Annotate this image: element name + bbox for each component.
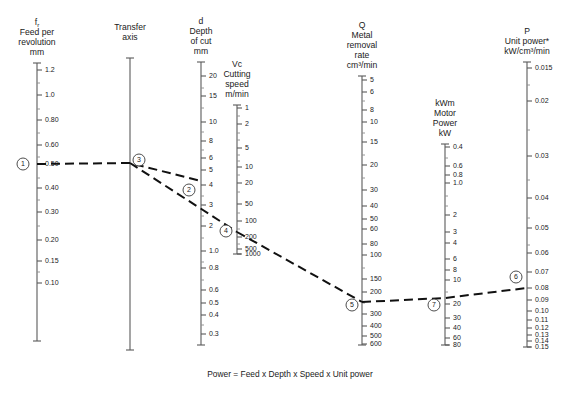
axis-header-motor-1: Power (433, 118, 457, 128)
tick-label-depth-12: 3 (209, 201, 213, 208)
tick-label-feed-6: 0.60 (45, 141, 59, 148)
tick-label-motor-8: 3 (453, 228, 457, 235)
tick-label-unitpower-14: 0.10 (535, 307, 549, 314)
tick-label-unitpower-19: 0.15 (535, 343, 549, 350)
tick-label-motor-16: 40 (453, 324, 461, 331)
tick-label-depth-18: 0.8 (209, 264, 219, 271)
node-marker-6: 6 (510, 271, 522, 283)
tick-label-depth-20: 0.6 (209, 286, 219, 293)
tick-label-depth-8: 6 (209, 154, 213, 161)
tick-label-depth-14: 2 (209, 222, 213, 229)
axis-symbol-mrr: Q (359, 20, 366, 30)
tick-label-depth-16: 1.0 (209, 247, 219, 254)
isopleth-feed-to-depth (37, 163, 201, 181)
tick-label-unitpower-12: 0.08 (535, 284, 549, 291)
tick-label-feed-15: 0.15 (45, 257, 59, 264)
tick-label-mrr-3: 8 (370, 106, 374, 113)
axis-symbol-speed: Vc (232, 59, 243, 69)
axis-header-depth-0: Depth (190, 26, 213, 36)
tick-label-unitpower-8: 0.05 (535, 224, 549, 231)
tick-label-motor-9: 4 (453, 239, 457, 246)
tick-label-speed-8: 10 (245, 163, 253, 170)
axis-header-unitpower-1: kW/cm³/min (504, 46, 550, 56)
tick-label-feed-17: 0.10 (45, 279, 59, 286)
node-label-3: 3 (137, 156, 141, 163)
tick-label-motor-10: 6 (453, 255, 457, 262)
node-marker-5: 5 (346, 299, 358, 311)
axis-symbol-unitpower: P (524, 26, 530, 36)
tick-label-feed-14: 0.20 (45, 236, 59, 243)
axis-header-transfer-1: axis (122, 32, 137, 42)
axis-header-speed-1: speed (225, 79, 249, 89)
tick-label-depth-2: 15 (209, 92, 217, 99)
tick-label-feed-12: 0.30 (45, 208, 59, 215)
node-label-2: 2 (187, 186, 191, 193)
tick-label-motor-0: 0.4 (453, 143, 463, 150)
tick-label-motor-15: 30 (453, 314, 461, 321)
tick-label-mrr-22: 500 (370, 332, 382, 339)
tick-label-feed-0: 1.2 (45, 66, 55, 73)
node-label-4: 4 (224, 227, 228, 234)
tick-label-mrr-10: 30 (370, 186, 378, 193)
tick-label-mrr-11: 40 (370, 202, 378, 209)
axis-header-motor-0: Motor (434, 108, 456, 118)
tick-label-speed-10: 20 (245, 179, 253, 186)
tick-label-motor-17: 60 (453, 334, 461, 341)
tick-label-unitpower-0: 0.015 (535, 64, 553, 71)
tick-label-unitpower-4: 0.03 (535, 152, 549, 159)
tick-label-speed-14: 100 (245, 217, 257, 224)
axis-header-depth-1: of cut (190, 36, 212, 46)
axis-feed: frFeed perrevolutionmm1.21.00.800.600.50… (18, 17, 58, 341)
tick-label-feed-2: 1.0 (45, 91, 55, 98)
tick-label-depth-22: 0.4 (209, 311, 219, 318)
tick-label-mrr-6: 15 (370, 138, 378, 145)
tick-label-depth-6: 8 (209, 137, 213, 144)
tick-label-motor-2: 0.6 (453, 162, 463, 169)
axes-layer: frFeed perrevolutionmm1.21.00.800.600.50… (18, 16, 552, 350)
tick-label-mrr-12: 50 (370, 215, 378, 222)
tick-label-mrr-1: 6 (370, 88, 374, 95)
tick-label-unitpower-2: 0.02 (535, 97, 549, 104)
tick-label-mrr-8: 20 (370, 161, 378, 168)
axis-header-depth-2: mm (194, 46, 208, 56)
node-marker-2: 2 (183, 184, 195, 196)
node-marker-4: 4 (220, 225, 232, 237)
axis-header-mrr-0: Metal (351, 30, 372, 40)
axis-header-motor-2: kW (439, 128, 452, 138)
tick-label-motor-14: 20 (453, 300, 461, 307)
tick-label-speed-2: 2 (245, 120, 249, 127)
axis-header-mrr-2: rate (355, 50, 370, 60)
node-label-1: 1 (21, 160, 25, 167)
tick-label-unitpower-16: 0.12 (535, 324, 549, 331)
tick-label-depth-10: 4 (209, 181, 213, 188)
node-marker-3: 3 (133, 154, 145, 166)
tick-label-depth-21: 0.5 (209, 299, 219, 306)
axis-transfer: Transferaxis (114, 22, 146, 350)
tick-label-unitpower-13: 0.09 (535, 296, 549, 303)
tick-label-mrr-13: 60 (370, 225, 378, 232)
nomogram-canvas: frFeed perrevolutionmm1.21.00.800.600.50… (0, 0, 580, 395)
axis-header-feed-1: revolution (18, 37, 55, 47)
tick-label-motor-12: 10 (453, 276, 461, 283)
footer-formula: Power = Feed x Depth x Speed x Unit powe… (207, 369, 373, 379)
tick-label-mrr-18: 200 (370, 288, 382, 295)
tick-label-unitpower-10: 0.06 (535, 249, 549, 256)
tick-label-speed-0: 1 (245, 104, 249, 111)
tick-label-motor-11: 8 (453, 266, 457, 273)
tick-label-speed-12: 50 (245, 200, 253, 207)
node-label-5: 5 (350, 301, 354, 308)
tick-label-feed-10: 0.40 (45, 184, 59, 191)
tick-label-motor-3: 0.8 (453, 171, 463, 178)
nomogram-figure: frFeed perrevolutionmm1.21.00.800.600.50… (0, 0, 580, 395)
tick-label-speed-19: 1000 (245, 250, 261, 257)
axis-depth: dDepthof cutmm2015108654321.00.80.60.50.… (190, 16, 219, 345)
axis-symbol-motor: kWm (435, 98, 455, 108)
node-marker-7: 7 (428, 299, 440, 311)
axis-header-transfer-0: Transfer (114, 22, 146, 32)
axis-header-speed-2: m/min (225, 89, 249, 99)
tick-label-mrr-21: 400 (370, 322, 382, 329)
tick-label-mrr-20: 300 (370, 310, 382, 317)
tick-label-mrr-14: 80 (370, 240, 378, 247)
axis-header-feed-0: Feed per (20, 27, 55, 37)
tick-label-unitpower-15: 0.11 (535, 316, 548, 323)
